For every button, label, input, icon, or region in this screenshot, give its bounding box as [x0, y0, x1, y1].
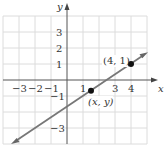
x-tick-label: 3: [112, 83, 118, 94]
point-label-4-1: (4, 1): [103, 55, 130, 66]
x-axis-arrow-icon: [151, 78, 158, 83]
x-tick-label: −2: [28, 83, 43, 94]
y-axis-label: y: [56, 1, 63, 12]
y-axis: [65, 3, 70, 144]
x-tick-label: 4: [128, 83, 134, 94]
y-tick-label: −3: [50, 123, 65, 134]
point-label-x-y: (x, y): [88, 96, 114, 107]
y-tick-label: 3: [56, 27, 62, 38]
x-tick-label: −3: [12, 83, 27, 94]
y-tick-label: −1: [50, 91, 65, 102]
y-axis-arrow-icon: [65, 3, 70, 10]
x-axis-label: x: [158, 83, 164, 94]
x-axis: [3, 78, 158, 83]
point-x-y: [88, 88, 94, 94]
y-tick-label: 2: [56, 43, 62, 54]
coordinate-plane: x y −3 −2 −1 1 3 4 3 2 1 −1 −3 (4, 1) (x…: [0, 0, 168, 154]
x-tick-label: 1: [80, 83, 86, 94]
y-tick-label: 1: [56, 59, 62, 70]
